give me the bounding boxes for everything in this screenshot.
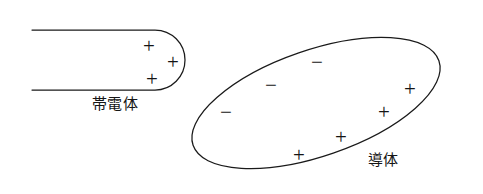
- charge-plus: +: [293, 145, 305, 166]
- conductor-label: 導体: [368, 153, 399, 168]
- charged-body-label: 帯電体: [92, 97, 139, 112]
- physics-figure: + + + 帯電体 − − − + + + + 導体: [0, 0, 483, 194]
- charge-minus: −: [220, 102, 232, 123]
- charge-plus: +: [404, 79, 416, 100]
- charge-plus: +: [335, 127, 347, 148]
- charge-minus: −: [311, 52, 323, 73]
- charge-plus: +: [146, 69, 158, 90]
- conductor-outline: [176, 11, 456, 194]
- charged-body-outline: [32, 30, 185, 90]
- charge-plus: +: [378, 102, 390, 123]
- charge-minus: −: [265, 75, 277, 96]
- charge-plus: +: [143, 36, 155, 57]
- charge-plus: +: [167, 52, 179, 73]
